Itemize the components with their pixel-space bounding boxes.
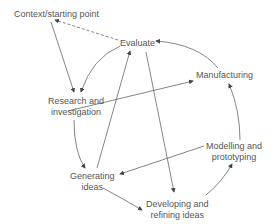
diagram-edges bbox=[0, 0, 278, 224]
node-research: Research and investigation bbox=[48, 96, 104, 118]
node-developing-line2: refining ideas bbox=[146, 210, 209, 221]
edge-evaluate-research bbox=[81, 46, 120, 92]
node-developing-line1: Developing and bbox=[146, 199, 209, 210]
node-research-line1: Research and bbox=[48, 96, 104, 107]
node-evaluate: Evaluate bbox=[120, 38, 155, 49]
edge-evaluate-context bbox=[55, 20, 118, 40]
edge-research-generating bbox=[74, 120, 85, 168]
node-research-line2: investigation bbox=[48, 107, 104, 118]
edge-context-research bbox=[51, 22, 74, 92]
node-manufacturing: Manufacturing bbox=[196, 70, 253, 81]
node-generating-line2: ideas bbox=[70, 182, 115, 193]
edge-developing-modelling bbox=[206, 164, 232, 195]
node-developing: Developing and refining ideas bbox=[146, 199, 209, 221]
node-modelling-line2: prototyping bbox=[206, 152, 262, 163]
node-generating-line1: Generating bbox=[70, 171, 115, 182]
edge-manufacturing-evaluate bbox=[156, 41, 218, 68]
node-context: Context/starting point bbox=[14, 9, 99, 20]
edge-modelling-manufacturing bbox=[229, 84, 240, 140]
edge-modelling-generating bbox=[120, 146, 204, 174]
node-generating: Generating ideas bbox=[70, 171, 115, 193]
node-modelling: Modelling and prototyping bbox=[206, 141, 262, 163]
edge-evaluate-developing bbox=[146, 52, 174, 192]
node-modelling-line1: Modelling and bbox=[206, 141, 262, 152]
